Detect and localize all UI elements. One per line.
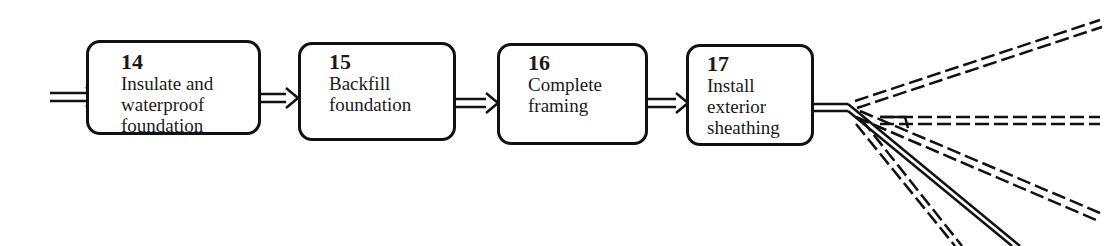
outgoing-trunk	[812, 104, 848, 111]
flowchart-canvas: 14 Insulate and waterproof foundation 15…	[0, 0, 1104, 246]
arrow-16-17	[646, 93, 688, 113]
step-15-box: 15 Backfill foundation	[298, 42, 456, 141]
step-17-label: Install exterior sheathing	[707, 75, 780, 138]
arrow-15-16	[455, 93, 498, 113]
step-14-label: Insulate and waterproof foundation	[121, 73, 213, 136]
step-17-box: 17 Install exterior sheathing	[686, 44, 814, 146]
solid-branch	[848, 104, 1020, 246]
step-16-label: Complete framing	[528, 74, 602, 116]
step-14-box: 14 Insulate and waterproof foundation	[86, 40, 261, 135]
step-14-number: 14	[121, 51, 143, 73]
step-16-number: 16	[528, 52, 550, 74]
step-16-box: 16 Complete framing	[497, 43, 648, 145]
arrow-14-15	[260, 88, 298, 108]
step-15-label: Backfill foundation	[329, 73, 411, 115]
step-17-number: 17	[707, 53, 729, 75]
step-15-number: 15	[329, 51, 351, 73]
